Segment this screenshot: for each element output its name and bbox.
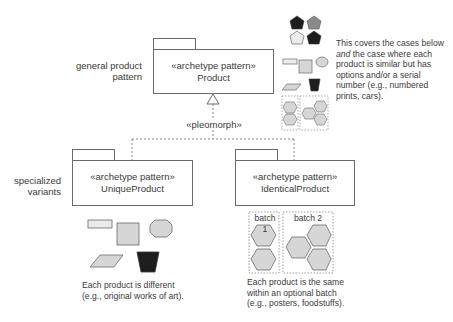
general-note-line6: prints, cars). bbox=[336, 91, 453, 102]
hexagon-icon bbox=[251, 249, 276, 270]
general-note-line4: options and/or a serial bbox=[336, 70, 453, 81]
parallelogram-shape-icon bbox=[282, 84, 301, 90]
pentagon-dark-icon bbox=[290, 16, 304, 29]
octagon-shape-icon bbox=[150, 220, 172, 237]
hexagon-icon bbox=[286, 237, 311, 258]
product-stereotype: «archetype pattern» bbox=[171, 60, 256, 72]
product-name: Product bbox=[197, 72, 230, 84]
identical-caption-line2: within an optional batch bbox=[247, 288, 387, 299]
batch-1-label: batch 1 bbox=[251, 213, 279, 234]
product-package[interactable]: «archetype pattern» Product bbox=[153, 49, 274, 94]
unique-caption: Each product is different (e.g., origina… bbox=[82, 280, 222, 301]
general-note-line2: and the case where each bbox=[336, 49, 453, 60]
batch-2-label: batch 2 bbox=[285, 213, 331, 224]
hexagon-icon bbox=[307, 249, 331, 270]
pentagon-pale-icon bbox=[290, 31, 304, 44]
general-note-line1: This covers the cases below bbox=[336, 38, 453, 49]
general-note-italic: and bbox=[336, 49, 350, 59]
rectangle-shape-icon bbox=[88, 220, 112, 228]
specialized-label-line2: variants bbox=[0, 186, 61, 197]
identical-product-package[interactable]: «archetype pattern» IdenticalProduct bbox=[235, 160, 355, 206]
octagon-shape-icon bbox=[316, 57, 328, 67]
identical-caption-line1: Each product is the same bbox=[247, 277, 387, 288]
hexagon-icon bbox=[314, 101, 327, 112]
identical-caption-line3: (e.g., posters, foodstuffs). bbox=[247, 298, 387, 309]
general-label-line1: general product bbox=[60, 60, 142, 71]
general-label-line2: pattern bbox=[60, 71, 142, 82]
trapezoid-shape-icon bbox=[137, 252, 159, 272]
square-shape-icon bbox=[299, 60, 312, 73]
parallelogram-shape-icon bbox=[90, 255, 123, 267]
identical-stereotype: «archetype pattern» bbox=[253, 171, 338, 183]
identical-name: IdenticalProduct bbox=[261, 183, 329, 195]
unique-caption-line1: Each product is different bbox=[82, 280, 222, 291]
rectangle-shape-icon bbox=[283, 59, 297, 64]
pleomorph-label: «pleomorph» bbox=[183, 119, 245, 130]
hexagon-icon bbox=[283, 102, 297, 113]
unique-product-package[interactable]: «archetype pattern» UniqueProduct bbox=[72, 160, 193, 206]
general-product-label: general product pattern bbox=[60, 60, 142, 82]
generalization-arrowhead bbox=[207, 94, 219, 104]
hexagon-icon bbox=[314, 114, 327, 125]
general-note-line5: number (e.g., numbered bbox=[336, 80, 453, 91]
unique-caption-line2: (e.g., original works of art). bbox=[82, 291, 222, 302]
identical-caption: Each product is the same within an optio… bbox=[247, 277, 387, 309]
hexagon-icon bbox=[283, 114, 297, 125]
square-shape-icon bbox=[117, 223, 139, 245]
general-note-line2-rest: the case where each bbox=[350, 49, 432, 59]
unique-name: UniqueProduct bbox=[101, 183, 164, 195]
hexagon-icon bbox=[302, 108, 316, 119]
specialized-variants-label: specialized variants bbox=[0, 175, 61, 197]
general-note: This covers the cases below and the case… bbox=[336, 38, 453, 102]
pentagon-dark-icon bbox=[307, 31, 321, 44]
general-note-line3: product is similar but has bbox=[336, 59, 453, 70]
hexagon-icon bbox=[307, 225, 331, 246]
trapezoid-shape-icon bbox=[309, 79, 320, 91]
specialized-label-line1: specialized bbox=[0, 175, 61, 186]
pentagon-mid-icon bbox=[307, 16, 321, 29]
unique-stereotype: «archetype pattern» bbox=[90, 171, 175, 183]
